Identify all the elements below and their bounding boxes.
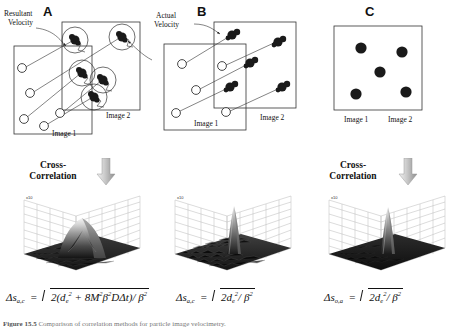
correlation-plot-c: x10 xyxy=(305,192,455,288)
panel-a-resultant-velocity-line2: Velocity xyxy=(8,18,33,27)
equation-c-tail-sup: 2 xyxy=(398,290,401,297)
equation-a-subscript: a,c xyxy=(17,297,25,304)
equation-a-num-sup: 2 xyxy=(69,290,72,297)
equation-a-equals: = xyxy=(27,291,40,303)
panel-b-velocity-vectors xyxy=(178,36,280,112)
figure-root: A xyxy=(0,0,458,332)
panel-a-image2-label: Image 2 xyxy=(106,111,131,120)
equation-a-num: 2(d xyxy=(51,291,66,303)
panel-b-scene: Actual Velocity Image 1 Image 2 xyxy=(152,0,304,150)
equation-b-num-sub: e xyxy=(232,297,235,304)
equation-b-num: 2d xyxy=(221,291,232,303)
plot-a-axis-exponent: x10 xyxy=(26,195,33,200)
figure-caption-label: Figure 15.5 xyxy=(3,320,37,328)
panel-a: A xyxy=(2,0,154,190)
panel-a-scene: Image 1 Image 2 Resultant Velocity xyxy=(2,0,154,150)
figure-caption-text: Comparison of correlation methods for pa… xyxy=(38,320,225,328)
equation-b-lhs: Δs xyxy=(176,291,187,303)
equation-b-equals: = xyxy=(197,291,210,303)
plot-c-axis-exponent: x10 xyxy=(331,195,338,200)
panel-b-actual-velocity-line2: Velocity xyxy=(154,20,179,29)
equation-b-tail: / β xyxy=(238,291,249,303)
correlation-plot-b: x10 xyxy=(153,192,303,288)
panel-a-resultant-velocity-line1: Resultant xyxy=(4,9,33,18)
equation-c: Δso,a = 2de2/ β2 xyxy=(324,288,403,314)
equation-c-num: 2d xyxy=(369,291,380,303)
panel-a-process-line2: Correlation xyxy=(14,171,92,182)
panel-b-image2-label: Image 2 xyxy=(260,113,285,122)
panel-a-image1-label: Image 1 xyxy=(52,129,77,138)
panel-c-scene: Image 1 Image 2 xyxy=(304,0,456,150)
equation-b-subscript: a,c xyxy=(187,297,195,304)
equation-c-equals: = xyxy=(346,291,359,303)
equation-c-subscript: o,a xyxy=(335,297,343,304)
plot-b-axis-exponent: x10 xyxy=(177,195,184,200)
panel-c: C Image 1 Image 2 Auto- Correlation xyxy=(304,0,456,190)
panel-c-particles xyxy=(350,42,411,99)
panel-b-actual-velocity-line1: Actual xyxy=(156,11,176,20)
equation-a-plus: + 8M xyxy=(75,291,100,303)
equation-c-tail: / β xyxy=(386,291,397,303)
equation-a-num-sub: e xyxy=(66,297,69,304)
equation-a-lhs: Δs xyxy=(6,291,17,303)
panel-b: B xyxy=(152,0,304,190)
panel-b-leader-lines xyxy=(194,24,220,34)
panel-c-image1-label: Image 1 xyxy=(344,115,369,124)
equation-c-radical: 2de2/ β2 xyxy=(361,288,403,304)
equation-a-tail-sup: 2 xyxy=(144,290,147,297)
equation-c-num-sub: e xyxy=(380,297,383,304)
panel-a-image1-particles xyxy=(18,64,65,131)
panel-b-image1-label: Image 1 xyxy=(194,119,219,128)
equation-a-radical: 2(de2 + 8M2β2DΔt)/ β2 xyxy=(43,288,149,304)
equation-a: Δsa,c = 2(de2 + 8M2β2DΔt)/ β2 xyxy=(6,288,149,314)
equation-a-tail: DΔt)/ β xyxy=(111,291,143,303)
equation-b-radical: 2de2/ β2 xyxy=(213,288,255,304)
figure-caption: Figure 15.5 Comparison of correlation me… xyxy=(3,320,455,331)
panel-a-flow-arrow xyxy=(96,158,116,186)
equation-b: Δsa,c = 2de2/ β2 xyxy=(176,288,255,314)
panel-a-process-label: Cross- Correlation xyxy=(14,160,92,182)
equation-b-tail-sup: 2 xyxy=(249,290,252,297)
panel-b-image2-particles xyxy=(224,29,291,93)
equation-c-lhs: Δs xyxy=(324,291,335,303)
panel-a-process-line1: Cross- xyxy=(14,160,92,171)
correlation-plot-a: x10 xyxy=(2,192,152,288)
panel-c-image2-label: Image 2 xyxy=(388,115,413,124)
